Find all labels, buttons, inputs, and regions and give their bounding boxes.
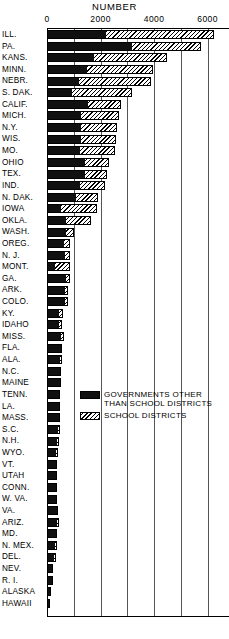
category-label: N. J. (0, 250, 47, 262)
bar-segment-other-governments (48, 530, 57, 537)
bar-segment-school-districts (56, 449, 58, 456)
bar-row (47, 238, 229, 250)
stacked-bar (47, 239, 70, 248)
category-label: R. I. (0, 575, 47, 587)
stacked-bar (47, 471, 57, 480)
bar-row (47, 435, 229, 447)
category-label: KY. (0, 308, 47, 320)
bar-row (47, 75, 229, 87)
bar-segment-school-districts (66, 229, 74, 236)
category-label: OHIO (0, 157, 47, 169)
category-label: TEX. (0, 168, 47, 180)
bar-row (47, 493, 229, 505)
bar-segment-school-districts (61, 205, 96, 212)
category-label: PA. (0, 41, 47, 53)
category-label: ALASKA (0, 586, 47, 598)
stacked-bar (47, 506, 58, 515)
stacked-bar (47, 564, 53, 573)
bar-segment-other-governments (48, 240, 64, 247)
stacked-bar (47, 483, 57, 492)
category-label: TENN. (0, 389, 47, 401)
bar-segment-other-governments (48, 136, 81, 143)
bar-row (47, 87, 229, 99)
stacked-bar (47, 320, 62, 329)
bar-segment-school-districts (61, 345, 62, 352)
bar-row (47, 296, 229, 308)
bar-segment-school-districts (60, 356, 62, 363)
bar-segment-school-districts (76, 194, 98, 201)
bar-segment-other-governments (48, 542, 55, 549)
bar-row (47, 157, 229, 169)
bar-segment-other-governments (48, 345, 61, 352)
stacked-bar (47, 228, 74, 237)
bar-segment-other-governments (48, 391, 60, 398)
category-label: MONT. (0, 261, 47, 273)
bar-row (47, 99, 229, 111)
category-label: IOWA (0, 203, 47, 215)
bar-segment-school-districts (57, 507, 58, 514)
bar-segment-other-governments (48, 426, 58, 433)
category-label: S.C. (0, 424, 47, 436)
bar-segment-other-governments (48, 101, 88, 108)
category-label: UTAH (0, 470, 47, 482)
bar-segment-other-governments (48, 252, 65, 259)
bar-segment-school-districts (55, 263, 70, 270)
stacked-bar (47, 30, 214, 39)
x-tick-label: 0 (44, 14, 49, 24)
bar-segment-school-districts (87, 66, 153, 73)
stacked-bar (47, 65, 153, 74)
category-label: VT. (0, 459, 47, 471)
stacked-bar (47, 344, 62, 353)
bar-segment-school-districts (80, 182, 106, 189)
bar-row (47, 110, 229, 122)
bar-segment-other-governments (48, 275, 66, 282)
bar-segment-school-districts (61, 333, 63, 340)
category-label: N.Y. (0, 122, 47, 134)
category-label: MASS. (0, 412, 47, 424)
category-label: NEBR. (0, 75, 47, 87)
bar-row (47, 133, 229, 145)
bar-segment-other-governments (48, 263, 55, 270)
legend-item: SCHOOL DISTRICTS (80, 411, 228, 420)
bar-segment-other-governments (48, 43, 132, 50)
bar-row (47, 377, 229, 389)
category-label: N.H. (0, 435, 47, 447)
bar-segment-other-governments (48, 147, 80, 154)
bar-segment-other-governments (48, 461, 57, 468)
bar-segment-school-districts (59, 403, 60, 410)
bar-segment-school-districts (57, 484, 58, 491)
bar-segment-school-districts (59, 310, 63, 317)
bar-segment-school-districts (66, 275, 70, 282)
bar-row (47, 482, 229, 494)
category-label: MISS. (0, 331, 47, 343)
category-label: FLA. (0, 342, 47, 354)
stacked-bar (47, 576, 53, 585)
stacked-bar (47, 181, 105, 190)
bar-segment-other-governments (48, 356, 60, 363)
stacked-bar (47, 204, 97, 213)
category-label: HAWAII (0, 598, 47, 610)
category-label: COLO. (0, 296, 47, 308)
bar-segment-other-governments (48, 89, 72, 96)
bar-row (47, 52, 229, 64)
category-label: CONN. (0, 482, 47, 494)
bar-segment-other-governments (48, 414, 59, 421)
bar-segment-school-districts (81, 136, 116, 143)
bar-segment-other-governments (48, 298, 65, 305)
bar-segment-other-governments (48, 66, 87, 73)
chart-title: NUMBER (0, 1, 229, 12)
bar-segment-school-districts (65, 287, 68, 294)
bar-row (47, 366, 229, 378)
bar-row (47, 145, 229, 157)
bar-segment-other-governments (48, 403, 59, 410)
bar-row (47, 41, 229, 53)
bar-chart: NUMBER 0200040006000 ILL.PA.KANS.MINN.NE… (0, 0, 229, 639)
bar-segment-school-districts (80, 147, 115, 154)
bar-row (47, 517, 229, 529)
stacked-bar (47, 413, 60, 422)
bar-segment-school-districts (85, 159, 109, 166)
bar-row (47, 226, 229, 238)
bar-row (47, 215, 229, 227)
stacked-bar (47, 448, 58, 457)
stacked-bar (47, 553, 56, 562)
